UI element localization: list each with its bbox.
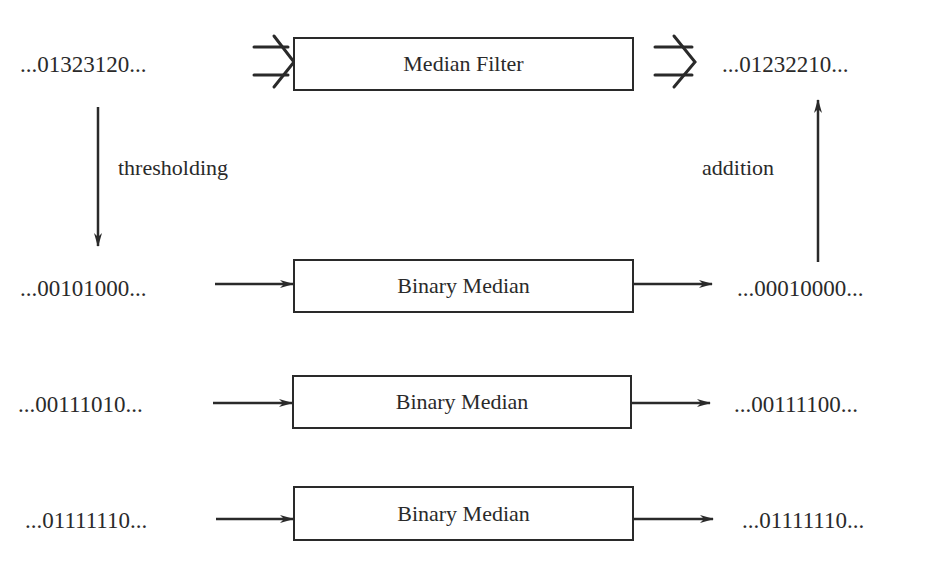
median-filter-block: Median Filter [293, 37, 634, 91]
binary-median-block: Binary Median [293, 259, 634, 313]
binary-median-block: Binary Median [293, 486, 634, 541]
addition-label: addition [702, 157, 774, 179]
binary-median-label: Binary Median [396, 389, 529, 415]
binary-output-sequence: ...00010000... [737, 277, 864, 300]
median-filter-label: Median Filter [403, 51, 523, 77]
median-output-sequence: ...01232210... [722, 53, 849, 76]
median-input-sequence: ...01323120... [20, 53, 147, 76]
double-arrow-in-icon [254, 36, 294, 87]
binary-median-label: Binary Median [397, 273, 530, 299]
thresholding-label: thresholding [118, 157, 228, 179]
binary-output-sequence: ...00111100... [734, 393, 858, 416]
double-arrow-out-icon [655, 36, 695, 87]
binary-median-label: Binary Median [397, 501, 530, 527]
binary-output-sequence: ...01111110... [742, 509, 864, 532]
binary-input-sequence: ...01111110... [25, 509, 147, 532]
binary-input-sequence: ...00111010... [18, 393, 143, 416]
binary-median-block: Binary Median [292, 375, 632, 429]
binary-input-sequence: ...00101000... [20, 277, 147, 300]
